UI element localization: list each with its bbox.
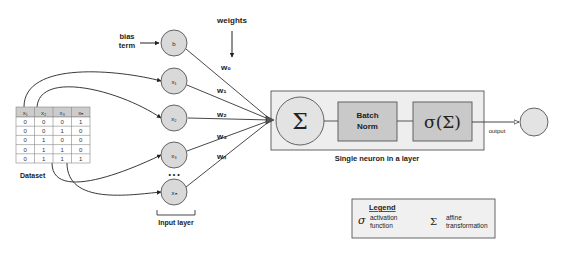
weight-label-3: w₃ [216, 132, 227, 141]
output-node [520, 108, 548, 136]
dataset-to-xn-curve [67, 163, 161, 195]
input-node-x3: x₃ [161, 142, 187, 168]
svg-text:σ(Σ): σ(Σ) [424, 112, 461, 132]
legend-sigma-line1: activation [370, 214, 398, 221]
svg-text:x₂: x₂ [171, 116, 177, 122]
legend-Sigma-line1: affine [446, 214, 462, 221]
sum-symbol: Σ [292, 109, 308, 134]
svg-text:Norm: Norm [357, 122, 378, 131]
bias-label-line1: bias [119, 32, 134, 41]
weight-line-x1 [187, 85, 271, 120]
weight-line-x3 [187, 120, 271, 151]
batch-norm-block: Batch Norm [338, 102, 397, 141]
input-layer-label: Input layer [158, 219, 194, 227]
input-node-x2: x₂ [161, 105, 187, 131]
weight-label-1: w₁ [216, 86, 227, 95]
input-node-xn: xₙ [161, 179, 187, 205]
svg-text:Batch: Batch [356, 111, 378, 120]
activation-block: σ(Σ) [413, 102, 472, 141]
weight-line-xn [186, 120, 271, 187]
input-layer-bracket [157, 210, 195, 215]
svg-text:x₃: x₃ [171, 153, 177, 159]
legend-Sigma-line2: transformation [446, 222, 488, 229]
table-header-x2: x₂ [41, 110, 47, 116]
input-node-b: b [161, 30, 187, 56]
weight-label-0: w₀ [220, 63, 231, 72]
weight-line-b [186, 49, 271, 120]
dataset-label: Dataset [20, 172, 46, 179]
sum-node: Σ [276, 97, 324, 145]
weight-label-2: w₂ [216, 110, 227, 119]
input-node-x1: x₁ [161, 68, 187, 94]
weight-label-n: wₙ [216, 152, 226, 161]
output-label: output [489, 128, 506, 134]
legend-sigma-line2: function [370, 222, 393, 229]
table-header-x1: x₁ [23, 110, 28, 116]
neural-network-diagram: weights bias term w₀ w₁ w₂ w₃ wₙ b x₁ x₂… [0, 0, 563, 253]
legend-title: Legend [369, 203, 396, 212]
table-header-x3: x₃ [59, 110, 65, 116]
legend-sigma-symbol: σ [358, 214, 366, 227]
bias-label-line2: term [119, 41, 136, 50]
legend-Sigma-symbol: Σ [430, 216, 437, 227]
neuron-caption: Single neuron in a layer [335, 154, 420, 163]
svg-text:x₁: x₁ [171, 79, 176, 85]
weights-label: weights [216, 16, 247, 25]
ellipsis: • • • [168, 171, 180, 178]
legend: Legend σ activation function Σ affine tr… [352, 199, 495, 238]
weight-line-x2 [188, 118, 271, 120]
dataset-table: x₁ x₂ x₃ xₙ 0 0 0 1 0 0 1 0 0 1 0 0 0 1 … [16, 107, 90, 163]
